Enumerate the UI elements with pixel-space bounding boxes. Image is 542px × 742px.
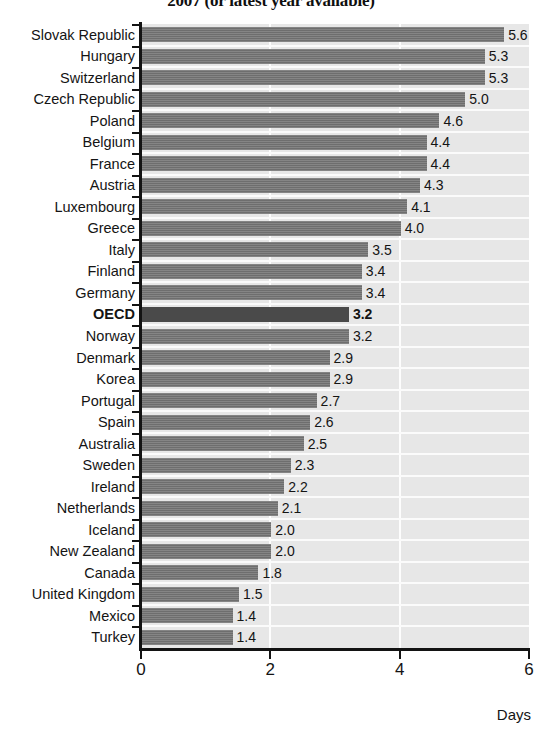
row-separator xyxy=(141,281,529,283)
row-separator xyxy=(141,432,529,434)
category-label: Korea xyxy=(5,372,135,387)
bar-value-label: 3.4 xyxy=(366,286,385,301)
bar xyxy=(142,565,258,580)
bar xyxy=(142,415,310,430)
category-label: Norway xyxy=(5,329,135,344)
row-separator xyxy=(141,561,529,563)
bar-value-label: 2.3 xyxy=(295,458,314,473)
row-separator xyxy=(141,45,529,47)
bar xyxy=(142,264,362,279)
bar-value-label: 4.3 xyxy=(424,178,443,193)
row-separator xyxy=(141,195,529,197)
y-axis-tick xyxy=(132,239,140,241)
chart-title: 2007 (or latest year available) xyxy=(0,0,542,11)
category-label: OECD xyxy=(5,307,135,322)
x-axis-tick xyxy=(528,651,530,659)
bar xyxy=(142,113,439,128)
category-label: Austria xyxy=(5,178,135,193)
category-label: Hungary xyxy=(5,49,135,64)
bar-value-label: 3.2 xyxy=(353,307,372,322)
y-axis-tick xyxy=(132,196,140,198)
row-separator xyxy=(141,625,529,627)
category-label: Slovak Republic xyxy=(5,28,135,43)
bar-value-label: 3.4 xyxy=(366,264,385,279)
category-label: Luxembourg xyxy=(5,200,135,215)
category-label: Greece xyxy=(5,221,135,236)
y-axis-tick xyxy=(132,411,140,413)
bar xyxy=(142,135,427,150)
y-axis-tick xyxy=(132,626,140,628)
row-separator xyxy=(141,88,529,90)
row-separator xyxy=(141,346,529,348)
bar xyxy=(142,156,427,171)
bar-value-label: 3.5 xyxy=(372,243,391,258)
bar-value-label: 3.2 xyxy=(353,329,372,344)
bar xyxy=(142,92,465,107)
category-label: Czech Republic xyxy=(5,92,135,107)
bar-value-label: 1.5 xyxy=(243,587,262,602)
row-separator xyxy=(141,410,529,412)
y-axis-tick xyxy=(132,433,140,435)
row-separator xyxy=(141,109,529,111)
bar xyxy=(142,27,504,42)
bar-value-label: 2.9 xyxy=(334,351,353,366)
x-axis-tick xyxy=(269,651,271,659)
y-axis-tick xyxy=(132,476,140,478)
y-axis-tick xyxy=(132,368,140,370)
row-separator xyxy=(141,518,529,520)
y-axis-tick xyxy=(132,519,140,521)
y-axis-tick xyxy=(132,540,140,542)
bar-value-label: 2.7 xyxy=(321,394,340,409)
x-axis-tick-label: 0 xyxy=(121,660,161,680)
bar xyxy=(142,242,368,257)
row-separator xyxy=(141,475,529,477)
bar-value-label: 4.4 xyxy=(431,135,450,150)
bar xyxy=(142,199,407,214)
bar xyxy=(142,544,271,559)
row-separator xyxy=(141,260,529,262)
category-label: Switzerland xyxy=(5,71,135,86)
y-axis-tick xyxy=(132,605,140,607)
bar xyxy=(142,372,330,387)
bar xyxy=(142,285,362,300)
category-label: Iceland xyxy=(5,523,135,538)
bar xyxy=(142,221,401,236)
row-separator xyxy=(141,367,529,369)
bar-value-label: 2.2 xyxy=(288,480,307,495)
bar-value-label: 5.6 xyxy=(508,28,527,43)
row-separator xyxy=(141,303,529,305)
row-separator xyxy=(141,66,529,68)
category-label: New Zealand xyxy=(5,544,135,559)
row-separator xyxy=(141,389,529,391)
category-label: Italy xyxy=(5,243,135,258)
category-label: Finland xyxy=(5,264,135,279)
bar xyxy=(142,479,284,494)
category-label: Belgium xyxy=(5,135,135,150)
bar-value-label: 2.0 xyxy=(275,523,294,538)
x-axis-tick-label: 6 xyxy=(509,660,542,680)
row-separator xyxy=(141,496,529,498)
x-axis-tick xyxy=(399,651,401,659)
bar xyxy=(142,608,233,623)
y-axis-tick xyxy=(132,454,140,456)
category-label: United Kingdom xyxy=(5,587,135,602)
y-axis-tick xyxy=(132,24,140,26)
x-axis-tick-label: 4 xyxy=(380,660,420,680)
category-label: Spain xyxy=(5,415,135,430)
category-label: Denmark xyxy=(5,351,135,366)
bar xyxy=(142,458,291,473)
y-axis-tick xyxy=(132,497,140,499)
row-separator xyxy=(141,453,529,455)
bar xyxy=(142,436,304,451)
category-label: Sweden xyxy=(5,458,135,473)
row-separator xyxy=(141,539,529,541)
category-label: Portugal xyxy=(5,394,135,409)
y-axis-tick xyxy=(132,282,140,284)
bar xyxy=(142,329,349,344)
category-label: Canada xyxy=(5,566,135,581)
y-axis-tick xyxy=(132,153,140,155)
x-axis-tick-label: 2 xyxy=(250,660,290,680)
y-axis-tick xyxy=(132,67,140,69)
category-label: Turkey xyxy=(5,630,135,645)
bar-value-label: 5.3 xyxy=(489,71,508,86)
